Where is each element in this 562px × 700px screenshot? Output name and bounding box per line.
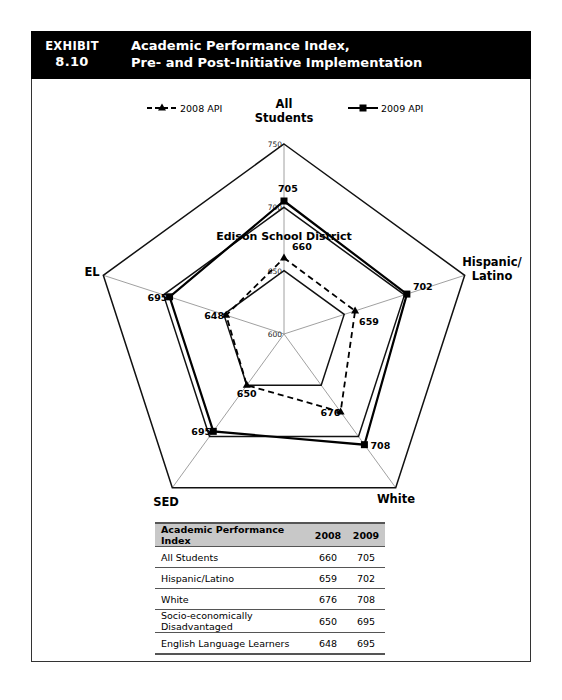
api-table: Academic Performance Index 2008 2009 All… <box>155 522 385 655</box>
column-header: 2008 <box>309 523 347 547</box>
data-value-label: 702 <box>413 281 433 292</box>
row-label: White <box>155 589 309 610</box>
axis-label: White <box>377 492 415 506</box>
data-value-label: 659 <box>359 316 379 327</box>
legend-label: 2009 API <box>381 103 423 114</box>
chart-title: Edison School District <box>216 230 352 243</box>
ring-tick-label: 600 <box>268 330 283 339</box>
table-row: White 676 708 <box>155 589 385 610</box>
data-value-label: 676 <box>321 407 341 418</box>
cell-2008: 659 <box>309 568 347 589</box>
cell-2009: 695 <box>347 610 385 633</box>
axis-label: SED <box>153 495 179 509</box>
square-marker-icon <box>360 105 367 112</box>
axis-label: Hispanic/Latino <box>462 255 522 283</box>
data-value-label: 705 <box>278 183 298 194</box>
data-value-label: 648 <box>204 310 224 321</box>
row-label: English Language Learners <box>155 633 309 655</box>
square-marker-icon <box>281 198 288 205</box>
square-marker-icon <box>361 441 368 448</box>
data-value-label: 708 <box>370 440 390 451</box>
data-value-label: 650 <box>237 388 257 399</box>
column-header: 2009 <box>347 523 385 547</box>
table-header-row: Academic Performance Index 2008 2009 <box>155 523 385 547</box>
cell-2008: 676 <box>309 589 347 610</box>
square-marker-icon <box>403 291 410 298</box>
cell-2008: 660 <box>309 547 347 568</box>
cell-2009: 702 <box>347 568 385 589</box>
row-label: Hispanic/Latino <box>155 568 309 589</box>
triangle-marker-icon <box>280 254 288 261</box>
cell-2009: 695 <box>347 633 385 655</box>
data-value-label: 695 <box>148 292 168 303</box>
radar-chart: 600650700750 Edison School District66065… <box>0 0 562 520</box>
axis-label: AllStudents <box>255 97 314 125</box>
cell-2009: 708 <box>347 589 385 610</box>
row-label: All Students <box>155 547 309 568</box>
table-row: All Students 660 705 <box>155 547 385 568</box>
column-header: Academic Performance Index <box>155 523 309 547</box>
cell-2008: 650 <box>309 610 347 633</box>
table-row: Hispanic/Latino 659 702 <box>155 568 385 589</box>
cell-2009: 705 <box>347 547 385 568</box>
table-row: Socio-economically Disadvantaged 650 695 <box>155 610 385 633</box>
cell-2008: 648 <box>309 633 347 655</box>
legend-label: 2008 API <box>180 103 222 114</box>
data-value-label: 695 <box>191 426 211 437</box>
table-row: English Language Learners 648 695 <box>155 633 385 655</box>
row-label: Socio-economically Disadvantaged <box>155 610 309 633</box>
axis-label: EL <box>84 265 100 279</box>
data-value-label: 660 <box>292 241 312 252</box>
ring-tick-label: 750 <box>268 140 283 149</box>
